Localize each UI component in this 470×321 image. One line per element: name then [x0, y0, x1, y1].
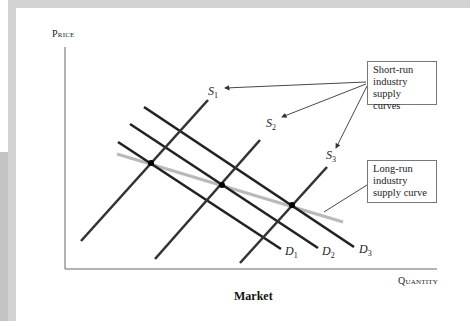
- arrow-to-s3: [336, 86, 367, 148]
- label-s3: S3: [326, 148, 336, 164]
- label-d2-sub: 2: [331, 251, 335, 260]
- long-run-callout-line-3: supply curve: [373, 187, 431, 199]
- label-s2-sub: 2: [272, 123, 276, 132]
- short-run-callout-line-1: Short-run: [373, 64, 431, 76]
- label-d2: D2: [322, 244, 335, 260]
- long-run-callout-line-1: Long-run: [373, 163, 431, 175]
- equilibrium-point-3: [289, 202, 295, 208]
- label-d3-name: D: [359, 242, 368, 256]
- label-d2-name: D: [322, 244, 331, 258]
- y-axis-label: Price: [52, 28, 75, 39]
- short-run-callout-line-2: industry: [373, 76, 431, 88]
- label-d1: D1: [285, 244, 298, 260]
- arrow-to-s2: [282, 84, 366, 117]
- label-s1: S1: [208, 84, 218, 100]
- label-s3-sub: 3: [332, 155, 336, 164]
- equilibrium-point-2: [219, 182, 225, 188]
- supply-curve-s3: [240, 167, 327, 263]
- label-d1-name: D: [285, 244, 294, 258]
- equilibrium-point-1: [148, 160, 154, 166]
- y-axis-label-text: Price: [52, 28, 75, 39]
- x-axis-label-text: Quantity: [398, 275, 438, 286]
- label-d3: D3: [359, 242, 372, 258]
- long-run-callout-line-2: industry: [373, 175, 431, 187]
- short-run-callout-line-3: supply curves: [373, 88, 431, 112]
- label-d3-sub: 3: [368, 249, 372, 258]
- long-run-callout: Long-run industry supply curve: [367, 160, 437, 203]
- label-s1-sub: 1: [214, 91, 218, 100]
- x-axis-label: Quantity: [398, 275, 438, 286]
- short-run-callout: Short-run industry supply curves: [367, 61, 437, 105]
- demand-curve-d3: [144, 107, 354, 247]
- arrow-to-s1: [225, 82, 366, 88]
- diagram-caption: Market: [234, 289, 273, 304]
- label-d1-sub: 1: [294, 251, 298, 260]
- long-run-connector: [324, 185, 367, 212]
- label-s2: S2: [266, 116, 276, 132]
